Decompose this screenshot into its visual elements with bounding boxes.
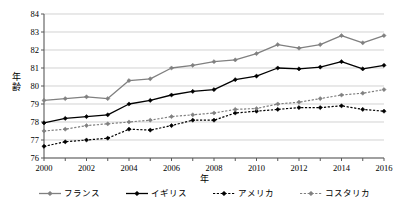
legend-marker-icon (213, 189, 235, 198)
data-point-marker (148, 98, 152, 102)
data-point-marker (84, 95, 88, 99)
data-point-marker (276, 107, 280, 111)
legend-item[interactable]: イギリス (126, 189, 187, 198)
data-point-marker (233, 58, 237, 62)
data-point-marker (318, 43, 322, 47)
data-point-marker (318, 106, 322, 110)
data-point-marker (127, 127, 131, 131)
data-point-marker (361, 41, 365, 45)
legend-item[interactable]: フランス (39, 189, 100, 198)
data-point-marker (169, 124, 173, 128)
data-point-marker (361, 67, 365, 71)
y-tick-label: 76 (19, 154, 39, 163)
series-line (44, 90, 384, 131)
data-point-marker (361, 91, 365, 95)
data-point-marker (42, 129, 46, 133)
data-point-marker (84, 115, 88, 119)
data-point-marker (221, 191, 226, 196)
data-point-marker (276, 66, 280, 70)
data-point-marker (276, 102, 280, 106)
line-chart: 年 齢 767778798081828384 20002002200420062… (0, 0, 408, 211)
legend-marker-icon (300, 189, 322, 198)
data-point-marker (148, 128, 152, 132)
data-point-marker (191, 63, 195, 67)
legend-item[interactable]: コスタリカ (300, 189, 370, 198)
data-point-marker (276, 43, 280, 47)
y-tick-label: 82 (19, 46, 39, 55)
data-point-marker (212, 88, 216, 92)
data-point-marker (42, 121, 46, 125)
data-point-marker (339, 93, 343, 97)
legend-label: コスタリカ (325, 189, 370, 198)
data-point-marker (297, 67, 301, 71)
data-point-marker (339, 34, 343, 38)
y-tick-label: 81 (19, 64, 39, 73)
data-point-marker (308, 191, 313, 196)
data-point-marker (63, 97, 67, 101)
y-tick-label: 83 (19, 28, 39, 37)
data-point-marker (212, 111, 216, 115)
data-point-marker (84, 138, 88, 142)
data-point-marker (382, 109, 386, 113)
data-point-marker (191, 89, 195, 93)
data-point-marker (297, 106, 301, 110)
data-point-marker (361, 107, 365, 111)
data-point-marker (191, 113, 195, 117)
data-point-marker (212, 60, 216, 64)
data-point-marker (127, 120, 131, 124)
series-4 (42, 88, 386, 134)
data-point-marker (318, 65, 322, 69)
data-point-marker (382, 88, 386, 92)
data-point-marker (42, 98, 46, 102)
data-point-marker (254, 74, 258, 78)
legend-marker-icon (39, 189, 61, 198)
chart-legend: フランスイギリスアメリカコスタリカ (0, 189, 408, 198)
data-point-marker (382, 63, 386, 67)
data-point-marker (169, 93, 173, 97)
x-axis-title: 年 (0, 172, 408, 185)
y-tick-label: 78 (19, 118, 39, 127)
legend-marker-icon (126, 189, 148, 198)
data-point-marker (318, 97, 322, 101)
data-point-marker (63, 127, 67, 131)
data-point-marker (42, 144, 46, 148)
data-point-marker (63, 116, 67, 120)
series-3 (42, 104, 386, 149)
data-point-marker (382, 34, 386, 38)
y-tick-label: 84 (19, 10, 39, 19)
data-point-marker (254, 52, 258, 56)
data-point-marker (84, 124, 88, 128)
data-point-marker (233, 78, 237, 82)
y-tick-label: 77 (19, 136, 39, 145)
data-point-marker (47, 191, 52, 196)
data-point-marker (134, 191, 139, 196)
gridlines (44, 14, 384, 158)
data-point-marker (339, 60, 343, 64)
legend-item[interactable]: アメリカ (213, 189, 274, 198)
y-tick-label: 79 (19, 100, 39, 109)
y-tick-label: 80 (19, 82, 39, 91)
legend-label: アメリカ (238, 189, 274, 198)
data-point-marker (169, 115, 173, 119)
y-axis-title-char-1: 年 (10, 72, 22, 82)
data-point-marker (254, 106, 258, 110)
legend-label: フランス (64, 189, 100, 198)
data-series-layer (42, 34, 386, 149)
legend-label: イギリス (151, 189, 187, 198)
data-point-marker (233, 107, 237, 111)
